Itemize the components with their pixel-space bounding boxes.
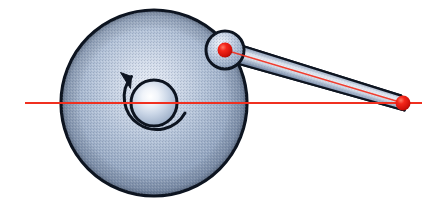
diagram-canvas (0, 0, 429, 203)
crank-pin-joint (218, 43, 233, 58)
slider-pin-joint (396, 96, 411, 111)
slider-crank-mechanism-illustration (0, 0, 429, 203)
rod-axis-line (225, 50, 403, 103)
